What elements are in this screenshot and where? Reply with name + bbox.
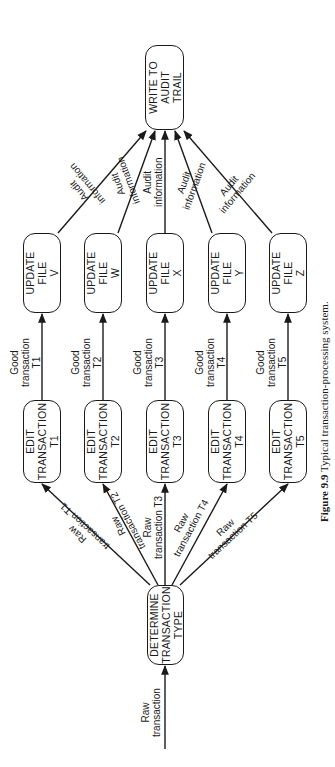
edit-transaction-t5-node: EDITTRANSACTIONT5	[269, 400, 307, 483]
write-to-audit-trail-node: WRITE TO AUDIT TRAIL	[145, 45, 184, 130]
edit-transaction-t2-node: EDITTRANSACTIONT2	[84, 400, 122, 483]
determine-transaction-type-node: DETERMINE TRANSACTION TYPE	[147, 585, 184, 665]
edit-transaction-t3-node: EDITTRANSACTIONT3	[146, 400, 184, 483]
good-t1-label: GoodtransactionT1	[9, 338, 42, 387]
good-t2-label: GoodtransactionT2	[70, 338, 103, 387]
raw-input-label: Raw transaction	[140, 688, 162, 737]
raw-t3-label: Rawtransaction T3	[142, 496, 164, 559]
edit-transaction-t1-node: EDITTRANSACTIONT1	[23, 400, 61, 483]
update-file-v-node: UPDATEFILEV	[23, 233, 61, 313]
edit-transaction-t4-node: EDITTRANSACTIONT4	[208, 400, 246, 483]
update-file-y-node: UPDATEFILEY	[208, 233, 246, 313]
update-file-z-node: UPDATEFILEZ	[269, 233, 307, 313]
good-t3-label: GoodtransactionT3	[132, 338, 165, 387]
good-t5-label: GoodtransactionT5	[255, 338, 288, 387]
update-file-w-node: UPDATEFILEW	[84, 233, 122, 313]
figure-number: Figure 9.9	[318, 475, 330, 522]
good-t4-label: GoodtransactionT4	[194, 338, 227, 387]
update-file-x-node: UPDATEFILEX	[146, 233, 184, 313]
figure-caption-text: Typical transaction-processing system.	[318, 301, 330, 472]
audit-x-label: Auditinformation	[142, 158, 164, 207]
diagram-canvas: Raw transaction DETERMINE TRANSACTION TY…	[0, 0, 335, 767]
figure-caption: Figure 9.9 Typical transaction-processin…	[318, 301, 330, 522]
